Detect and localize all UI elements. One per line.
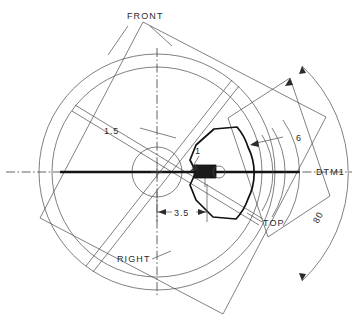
dimension-1-5-group: 1.5 — [104, 126, 176, 138]
center-mark — [151, 166, 163, 178]
dimension-80-value: 80 — [311, 210, 325, 225]
right-plane-edge-b — [93, 86, 239, 272]
tilted-rectangle-front-plane — [40, 22, 326, 314]
dim-1-5-leader — [140, 128, 176, 138]
datum-label-right-group: RIGHT — [117, 251, 171, 264]
angular-arc-arrow-bottom — [299, 273, 306, 281]
front-leader-line — [108, 26, 128, 55]
dimension-3-5-value: 3.5 — [174, 208, 189, 218]
front-leader-line-2 — [150, 26, 172, 46]
angular-arc-arrow-top — [299, 66, 306, 74]
front-plane-edge-b — [75, 105, 263, 219]
datum-label-dtm1-group: DTM1 — [316, 167, 345, 177]
dim-6-arrow-inner — [250, 140, 259, 147]
top-leader-line — [247, 213, 262, 222]
dimension-1-5-value: 1.5 — [104, 126, 119, 136]
datum-label-top: TOP — [263, 218, 285, 228]
datum-label-front: FRONT — [127, 11, 164, 21]
right-leader-line — [152, 251, 171, 259]
cad-vector-drawing: FRONT TOP RIGHT DTM1 1.5 3. — [0, 0, 361, 335]
datum-label-front-group: FRONT — [108, 11, 172, 55]
dimension-1-value: 1 — [195, 146, 201, 156]
datum-label-right: RIGHT — [117, 254, 151, 264]
dimension-6-group: 6 — [250, 78, 302, 147]
dim-3-5-arrow-left — [158, 209, 166, 215]
datum-label-dtm1: DTM1 — [316, 167, 345, 177]
cad-drawing-canvas: FRONT TOP RIGHT DTM1 1.5 3. — [0, 0, 361, 335]
dimension-80-group: 80 — [311, 210, 325, 225]
hub-key-block — [194, 165, 225, 187]
dimension-6-value: 6 — [296, 133, 302, 143]
dim-6-arrow-top — [285, 78, 293, 86]
